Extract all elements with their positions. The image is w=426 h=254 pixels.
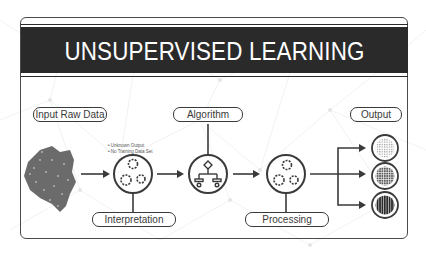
interpretation-gears-icon: [114, 155, 152, 193]
label-interpretation: Interpretation: [92, 212, 176, 227]
algorithm-flowchart-icon: [189, 155, 227, 193]
label-algorithm: Algorithm: [173, 107, 243, 122]
interpretation-notes: • Unknown Output • No Training Data Set: [108, 143, 153, 155]
output-circle-2: [372, 163, 398, 189]
note-no-training-data: • No Training Data Set: [108, 149, 153, 155]
flow-diagram: [0, 0, 426, 254]
processing-gears-icon: [267, 155, 305, 193]
label-processing: Processing: [245, 212, 329, 227]
output-circle-1: [372, 135, 398, 161]
data-cluster-icon: [24, 146, 76, 212]
label-input-raw-data: Input Raw Data: [33, 107, 107, 122]
output-circle-3: [372, 192, 398, 218]
label-output: Output: [350, 107, 402, 122]
